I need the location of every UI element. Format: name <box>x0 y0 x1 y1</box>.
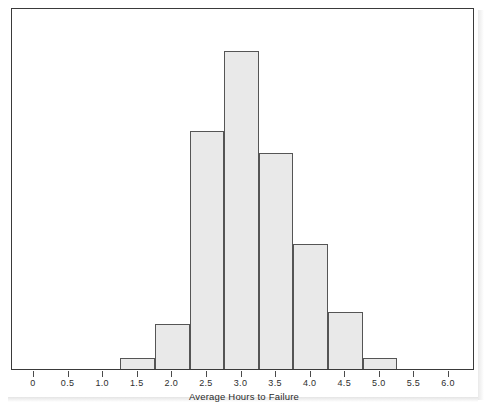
x-axis-tick <box>171 371 172 377</box>
x-axis-tick <box>33 371 34 377</box>
x-axis-tick <box>379 371 380 377</box>
histogram-bar <box>259 153 294 369</box>
page-edge-shadow-right <box>478 10 484 400</box>
histogram-bar <box>224 51 259 369</box>
histogram-figure: 00.51.01.52.02.53.03.54.04.55.05.56.0 Av… <box>0 0 488 410</box>
x-axis-title: Average Hours to Failure <box>0 391 488 402</box>
histogram-bar <box>190 131 225 370</box>
histogram-bar <box>155 324 190 369</box>
x-axis-tick <box>241 371 242 377</box>
x-axis-tick <box>137 371 138 377</box>
x-axis-tick <box>344 371 345 377</box>
x-axis-tick <box>310 371 311 377</box>
x-axis-tick <box>68 371 69 377</box>
histogram-bar <box>328 312 363 369</box>
x-axis-tick <box>448 371 449 377</box>
histogram-bars-layer <box>12 9 473 369</box>
histogram-bar <box>363 358 398 369</box>
histogram-bar <box>120 358 155 369</box>
x-axis-tick <box>413 371 414 377</box>
x-axis-tick <box>102 371 103 377</box>
histogram-bar <box>293 244 328 369</box>
x-axis-tick-label: 6.0 <box>428 378 468 388</box>
plot-frame <box>11 8 474 370</box>
x-axis-tick <box>275 371 276 377</box>
x-axis-tick <box>206 371 207 377</box>
